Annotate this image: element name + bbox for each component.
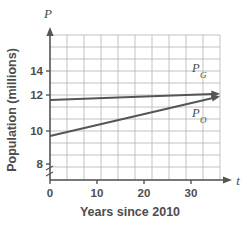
x-axis-symbol-label: t [236, 173, 240, 188]
y-axis-caption: Population (millions) [5, 48, 19, 172]
x-axis-arrow-icon [223, 176, 232, 183]
y-tick-label-14: 14 [30, 65, 43, 77]
population-line-chart: 14 12 10 8 0 10 20 30 P t Years since 20… [0, 0, 247, 225]
x-axis-caption: Years since 2010 [80, 205, 180, 219]
x-tick-label-20: 20 [138, 187, 151, 199]
y-axis-symbol-label: P [43, 6, 52, 21]
chart-screenshot: 14 12 10 8 0 10 20 30 P t Years since 20… [0, 0, 247, 225]
series-label-po-main: P [191, 106, 200, 120]
series-label-po-subscript: O [200, 115, 207, 125]
series-label-pg-subscript: G [200, 70, 207, 80]
y-tick-label-8: 8 [37, 158, 44, 170]
x-tick-label-0: 0 [47, 187, 53, 199]
series-label-pg-main: P [191, 61, 200, 75]
x-tick-label-30: 30 [185, 187, 198, 199]
y-tick-label-10: 10 [30, 125, 43, 137]
y-axis-arrow-icon [46, 27, 53, 36]
y-tick-label-12: 12 [30, 89, 43, 101]
x-tick-label-10: 10 [91, 187, 104, 199]
